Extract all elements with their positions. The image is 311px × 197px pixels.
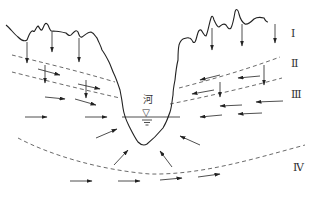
zone-IV-arrows <box>70 174 220 181</box>
zone-I-infiltration-arrows <box>27 24 275 63</box>
groundwater-flow-diagram: ▽ 河 Ⅰ Ⅱ Ⅲ Ⅳ <box>0 0 311 197</box>
zone-label-I: Ⅰ <box>291 27 295 39</box>
zone-boundary-I-II-left <box>12 55 115 82</box>
zone-label-IV: Ⅳ <box>293 161 305 173</box>
water-level-symbol: ▽ <box>142 107 150 118</box>
zone-label-III: Ⅲ <box>291 88 302 100</box>
zone-boundary-II-III-right <box>170 78 282 104</box>
zone-label-II: Ⅱ <box>291 57 298 69</box>
zone-boundary-II-III-left <box>12 72 120 98</box>
zone-boundary-III-IV <box>18 138 305 174</box>
river-label: 河 <box>143 94 153 105</box>
water-level-ticks <box>142 120 152 125</box>
zone-boundary-I-II-right <box>179 57 280 88</box>
